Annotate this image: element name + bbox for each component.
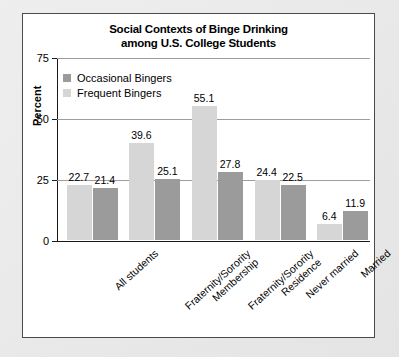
y-tick-50 xyxy=(52,119,57,120)
bar-value-label: 6.4 xyxy=(322,210,337,222)
bar-group: 39.625.1 xyxy=(129,57,180,240)
bar-occasional-bingers[interactable] xyxy=(93,188,118,240)
bar-value-label: 55.1 xyxy=(194,92,214,104)
bar-group: 55.127.8 xyxy=(192,57,243,240)
bar-value-label: 24.4 xyxy=(256,166,276,178)
bar-occasional-bingers[interactable] xyxy=(155,179,180,240)
bar-frequent-bingers[interactable] xyxy=(317,224,342,240)
y-tick-75 xyxy=(52,58,57,59)
bar-value-label: 22.7 xyxy=(69,171,89,183)
bar-value-label: 22.5 xyxy=(282,171,302,183)
bar-occasional-bingers[interactable] xyxy=(218,172,243,240)
plot-area: 0255075 22.721.439.625.155.127.824.422.5… xyxy=(57,58,370,241)
chart-title-line-1: Social Contexts of Binge Drinking xyxy=(23,22,374,36)
bar-group: 6.411.9 xyxy=(317,57,368,240)
bar-occasional-bingers[interactable] xyxy=(281,185,306,240)
chart-title-line-2: among U.S. College Students xyxy=(23,36,374,50)
bar-value-label: 27.8 xyxy=(220,158,240,170)
bar-group: 24.422.5 xyxy=(255,57,306,240)
y-tick-0 xyxy=(52,241,57,242)
bar-value-label: 21.4 xyxy=(95,174,115,186)
bar-frequent-bingers[interactable] xyxy=(129,143,154,240)
bar-frequent-bingers[interactable] xyxy=(255,180,280,240)
y-tick-25 xyxy=(52,180,57,181)
y-tick-label-25: 25 xyxy=(37,174,49,186)
y-axis-line xyxy=(57,58,58,242)
y-tick-label-75: 75 xyxy=(37,52,49,64)
bar-value-label: 39.6 xyxy=(131,129,151,141)
page-background: Social Contexts of Binge Drinking among … xyxy=(0,0,399,357)
x-axis-label: Fraternity/SororityMembership xyxy=(182,247,260,321)
x-axis-label: Married xyxy=(358,247,392,280)
chart-title: Social Contexts of Binge Drinking among … xyxy=(23,22,374,50)
chart-panel: Social Contexts of Binge Drinking among … xyxy=(22,13,375,338)
bar-occasional-bingers[interactable] xyxy=(343,211,368,240)
y-tick-label-0: 0 xyxy=(43,235,49,247)
x-axis-line xyxy=(57,241,370,242)
bar-group: 22.721.4 xyxy=(67,57,118,240)
bar-value-label: 25.1 xyxy=(157,165,177,177)
bar-frequent-bingers[interactable] xyxy=(67,185,92,240)
bar-value-label: 11.9 xyxy=(345,197,365,209)
y-tick-label-50: 50 xyxy=(37,113,49,125)
bar-frequent-bingers[interactable] xyxy=(192,106,217,240)
x-axis-label: All students xyxy=(112,247,160,292)
